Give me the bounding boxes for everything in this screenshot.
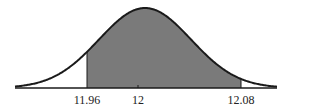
shaded-area (87, 8, 241, 88)
tick-label-mean: 12 (132, 93, 144, 108)
tick-label-lower: 11.96 (74, 93, 101, 108)
tick-label-upper: 12.08 (228, 93, 255, 108)
